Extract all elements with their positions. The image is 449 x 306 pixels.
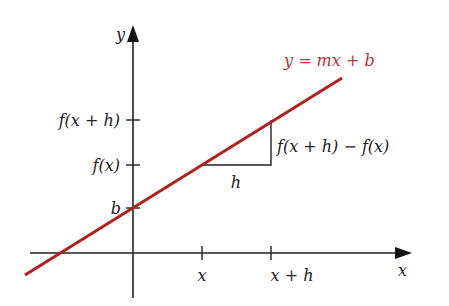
y-axis-arrow-icon	[127, 25, 139, 42]
slope-diagram: y x y = mx + b f(x + h) f(x) b x x + h h…	[0, 0, 449, 306]
y-axis-label: y	[115, 25, 126, 44]
rise-label: f(x + h) − f(x)	[276, 137, 389, 156]
diagram-svg: y x y = mx + b f(x + h) f(x) b x x + h h…	[0, 0, 449, 306]
xtick-label-xh: x + h	[271, 266, 314, 285]
ytick-label-fx: f(x)	[92, 156, 120, 175]
x-axis-arrow-icon	[395, 247, 412, 259]
ytick-label-fxh: f(x + h)	[58, 111, 120, 130]
x-axis-label: x	[398, 261, 407, 280]
line-y-mx-b	[25, 78, 342, 275]
run-label-h: h	[231, 173, 241, 192]
ytick-label-b: b	[111, 199, 121, 218]
xtick-label-x: x	[197, 266, 206, 285]
line-equation-label: y = mx + b	[283, 51, 375, 70]
